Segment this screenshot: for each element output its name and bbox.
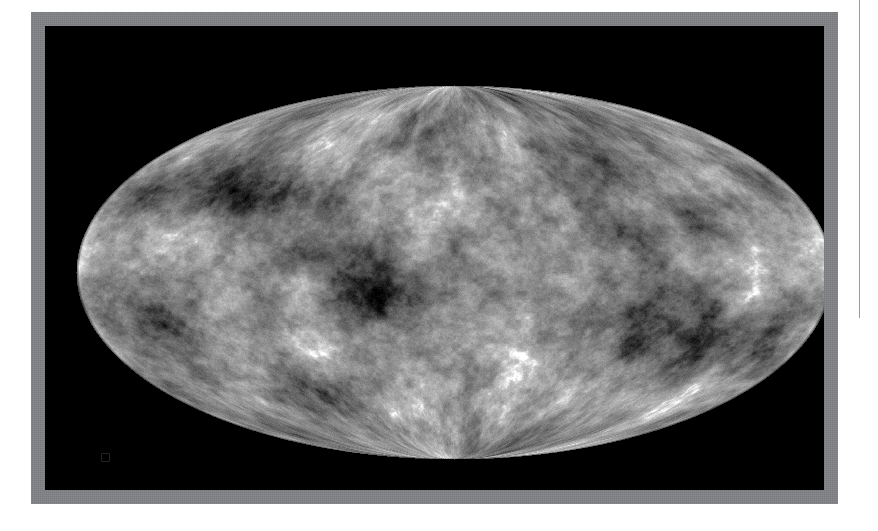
page-canvas (0, 0, 878, 531)
figure-frame (31, 12, 838, 504)
figure-caption (0, 0, 1, 1)
field-artifact-mark-icon (101, 453, 110, 462)
sky-field-background (45, 26, 824, 490)
cmb-all-sky-map-image (45, 26, 824, 490)
page-right-vertical-rule (859, 0, 860, 318)
